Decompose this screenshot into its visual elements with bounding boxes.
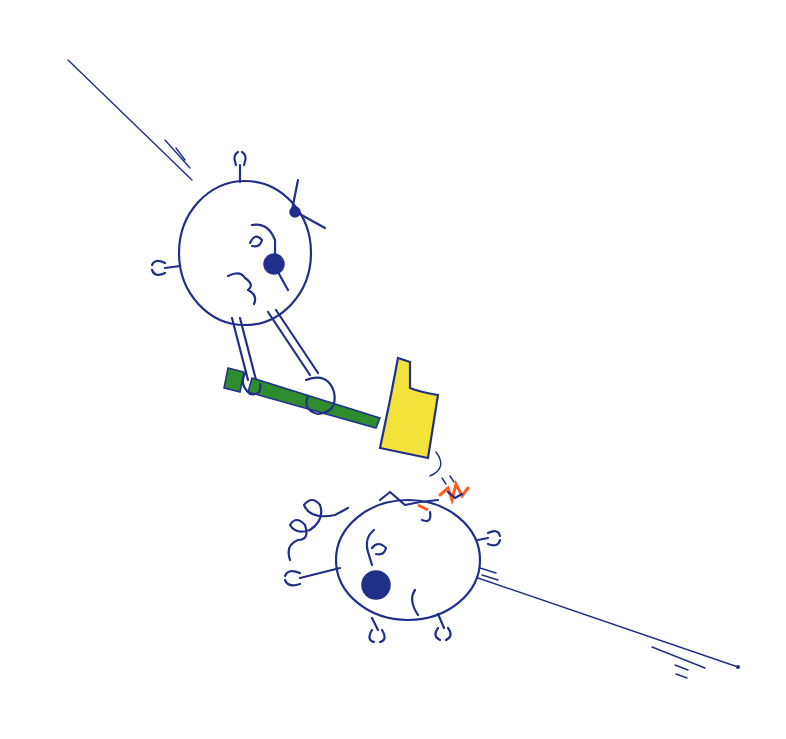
attacker-creature — [152, 152, 325, 380]
doodle-canvas — [0, 0, 786, 739]
victim-creature — [285, 484, 500, 642]
hammer — [224, 358, 454, 484]
